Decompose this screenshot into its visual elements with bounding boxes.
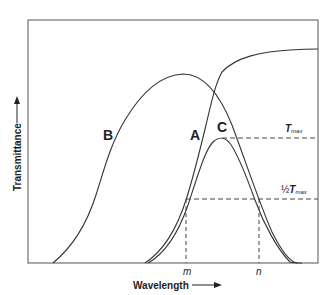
half-tmax-label: ½Tmax [281,184,308,195]
transmittance-diagram: B A C Tmax ½Tmax m n Wavelength Transmit… [0,0,334,295]
x-axis-label: Wavelength [133,280,189,291]
y-axis-arrow-icon [14,96,20,104]
tmax-label: Tmax [285,123,303,134]
curve-b-label: B [103,127,113,143]
tick-m: m [183,266,191,277]
y-axis-label: Transmittance [12,123,23,191]
curve-a-label: A [190,127,200,143]
curve-c-label: C [217,119,227,135]
tick-n: n [256,266,262,277]
plot-frame [28,20,318,263]
x-axis-arrow-icon [214,282,222,288]
curve-a [145,49,318,263]
